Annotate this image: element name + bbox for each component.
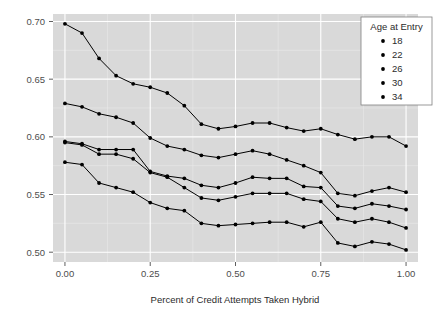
data-point bbox=[285, 176, 289, 180]
data-point bbox=[336, 191, 340, 195]
data-point bbox=[404, 208, 408, 212]
data-point bbox=[234, 223, 238, 227]
legend-label-34: 34 bbox=[392, 91, 403, 102]
data-point bbox=[182, 104, 186, 108]
data-point bbox=[268, 152, 272, 156]
data-point bbox=[234, 152, 238, 156]
data-point bbox=[285, 191, 289, 195]
data-point bbox=[404, 144, 408, 148]
data-point bbox=[302, 197, 306, 201]
data-point bbox=[387, 220, 391, 224]
data-point bbox=[165, 206, 169, 210]
data-point bbox=[199, 183, 203, 187]
data-point bbox=[97, 148, 101, 152]
data-point bbox=[114, 115, 118, 119]
data-point bbox=[217, 156, 221, 160]
x-tick-label: 0.00 bbox=[56, 268, 75, 279]
data-point bbox=[199, 122, 203, 126]
data-point bbox=[336, 241, 340, 245]
data-point bbox=[131, 148, 135, 152]
data-point bbox=[370, 217, 374, 221]
data-point bbox=[319, 200, 323, 204]
data-point bbox=[404, 226, 408, 230]
data-point bbox=[63, 160, 67, 164]
data-point bbox=[302, 185, 306, 189]
data-point bbox=[63, 102, 67, 106]
data-point bbox=[97, 152, 101, 156]
data-point bbox=[165, 175, 169, 179]
data-point bbox=[319, 220, 323, 224]
data-point bbox=[131, 121, 135, 125]
data-point bbox=[353, 137, 357, 141]
legend-label-18: 18 bbox=[392, 35, 403, 46]
legend-key-marker-34 bbox=[381, 95, 385, 99]
legend-key-marker-22 bbox=[381, 53, 385, 57]
data-point bbox=[387, 242, 391, 246]
data-point bbox=[182, 176, 186, 180]
data-point bbox=[268, 220, 272, 224]
data-point bbox=[165, 144, 169, 148]
data-point bbox=[268, 191, 272, 195]
data-point bbox=[114, 74, 118, 78]
data-point bbox=[63, 22, 67, 26]
data-point bbox=[80, 143, 84, 147]
data-point bbox=[370, 189, 374, 193]
data-point bbox=[182, 209, 186, 213]
data-point bbox=[148, 136, 152, 140]
data-point bbox=[114, 186, 118, 190]
legend-label-30: 30 bbox=[392, 77, 403, 88]
data-point bbox=[234, 181, 238, 185]
data-point bbox=[199, 221, 203, 225]
line-chart: 0.500.550.600.650.70 0.000.250.500.751.0… bbox=[0, 0, 438, 315]
data-point bbox=[387, 135, 391, 139]
data-point bbox=[148, 171, 152, 175]
data-point bbox=[182, 148, 186, 152]
data-point bbox=[217, 127, 221, 131]
data-point bbox=[131, 157, 135, 161]
legend-key-marker-18 bbox=[381, 39, 385, 43]
data-point bbox=[285, 158, 289, 162]
legend-title: Age at Entry bbox=[370, 21, 423, 32]
data-point bbox=[234, 125, 238, 129]
y-tick-label: 0.55 bbox=[27, 189, 46, 200]
data-point bbox=[251, 191, 255, 195]
data-point bbox=[80, 105, 84, 109]
legend-key-marker-26 bbox=[381, 67, 385, 71]
data-point bbox=[370, 202, 374, 206]
data-point bbox=[302, 225, 306, 229]
data-point bbox=[353, 245, 357, 249]
x-tick-label: 0.25 bbox=[141, 268, 160, 279]
y-tick-label: 0.50 bbox=[27, 247, 46, 258]
data-point bbox=[217, 224, 221, 228]
data-point bbox=[114, 152, 118, 156]
data-point bbox=[387, 186, 391, 190]
data-point bbox=[353, 194, 357, 198]
y-tick-label: 0.70 bbox=[27, 16, 46, 27]
data-point bbox=[148, 85, 152, 89]
data-point bbox=[182, 186, 186, 190]
legend: Age at Entry1822263034 bbox=[361, 17, 432, 105]
legend-key-marker-30 bbox=[381, 81, 385, 85]
x-tick-label: 0.50 bbox=[226, 268, 245, 279]
data-point bbox=[131, 82, 135, 86]
data-point bbox=[319, 127, 323, 131]
data-point bbox=[268, 121, 272, 125]
data-point bbox=[404, 248, 408, 252]
chart-figure: 0.500.550.600.650.70 0.000.250.500.751.0… bbox=[0, 0, 438, 315]
data-point bbox=[302, 164, 306, 168]
data-point bbox=[199, 153, 203, 157]
data-point bbox=[251, 175, 255, 179]
data-point bbox=[336, 133, 340, 137]
data-point bbox=[251, 221, 255, 225]
data-point bbox=[217, 186, 221, 190]
data-point bbox=[319, 171, 323, 175]
data-point bbox=[285, 220, 289, 224]
data-point bbox=[165, 91, 169, 95]
data-point bbox=[97, 57, 101, 61]
data-point bbox=[251, 121, 255, 125]
legend-label-26: 26 bbox=[392, 63, 403, 74]
x-tick-label: 0.75 bbox=[312, 268, 331, 279]
data-point bbox=[370, 135, 374, 139]
data-point bbox=[80, 163, 84, 167]
data-point bbox=[114, 148, 118, 152]
